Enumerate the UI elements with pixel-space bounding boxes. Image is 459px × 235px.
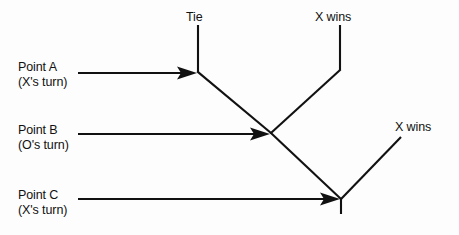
point-a-name: Point A	[18, 60, 67, 75]
game-tree-svg	[0, 0, 459, 235]
point-c-label: Point C (X's turn)	[18, 188, 67, 217]
tree-branches	[197, 25, 401, 214]
outcome-label-x-wins-top: X wins	[315, 10, 351, 24]
pointer-arrows	[78, 67, 340, 206]
branch-b-to-c	[270, 133, 341, 199]
diagram-canvas: Point A (X's turn) Point B (O's turn) Po…	[0, 0, 459, 235]
branch-a-to-b	[197, 71, 271, 133]
outcome-label-x-wins-right: X wins	[395, 120, 431, 134]
point-c-name: Point C	[18, 188, 67, 203]
arrow-point-c	[78, 193, 340, 206]
point-b-label: Point B (O's turn)	[18, 123, 69, 152]
outcome-label-tie: Tie	[186, 10, 203, 24]
point-a-label: Point A (X's turn)	[18, 60, 67, 89]
branch-c-to-xwins	[341, 137, 401, 199]
arrow-point-b	[78, 128, 270, 141]
point-b-turn: (O's turn)	[18, 138, 69, 153]
point-a-turn: (X's turn)	[18, 75, 67, 90]
point-b-name: Point B	[18, 123, 69, 138]
branch-b-to-xwins-top	[270, 69, 340, 133]
arrow-point-a	[78, 67, 197, 80]
point-c-turn: (X's turn)	[18, 203, 67, 218]
